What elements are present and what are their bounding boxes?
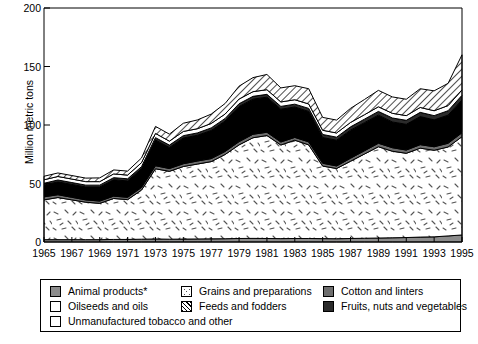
y-tick-label: 100	[15, 120, 41, 130]
legend-swatch-feeds-icon	[181, 301, 192, 312]
legend-swatch-oilseeds-icon	[50, 301, 61, 312]
legend-item-feeds[interactable]: Feeds and fodders	[181, 299, 287, 314]
legend: Animal products*Grains and preparationsC…	[40, 279, 461, 332]
y-tick-label: 150	[15, 62, 41, 72]
legend-label-fruits: Fruits, nuts and vegetables	[341, 301, 467, 312]
legend-label-animal: Animal products*	[68, 286, 147, 297]
legend-item-oilseeds[interactable]: Oilseeds and oils	[50, 299, 148, 314]
legend-item-cotton[interactable]: Cotton and linters	[323, 284, 423, 299]
legend-swatch-grains-icon	[181, 286, 192, 297]
legend-label-oilseeds: Oilseeds and oils	[68, 301, 148, 312]
y-axis-ticks: 050100150200	[0, 0, 41, 344]
legend-swatch-fruits-icon	[323, 301, 334, 312]
legend-label-tobacco: Unmanufactured tobacco and other	[68, 316, 233, 327]
legend-item-grains[interactable]: Grains and preparations	[181, 284, 312, 299]
legend-label-cotton: Cotton and linters	[341, 286, 423, 297]
legend-label-feeds: Feeds and fodders	[199, 301, 287, 312]
legend-item-tobacco[interactable]: Unmanufactured tobacco and other	[50, 314, 233, 329]
y-tick-label: 0	[15, 237, 41, 247]
legend-swatch-animal-icon	[50, 286, 61, 297]
legend-label-grains: Grains and preparations	[199, 286, 312, 297]
y-tick-label: 50	[15, 179, 41, 189]
legend-swatch-tobacco-icon	[50, 316, 61, 327]
y-tick-label: 200	[15, 3, 41, 13]
legend-item-fruits[interactable]: Fruits, nuts and vegetables	[323, 299, 467, 314]
x-tick-label: 1995	[445, 247, 478, 259]
legend-item-animal[interactable]: Animal products*	[50, 284, 147, 299]
legend-swatch-cotton-icon	[323, 286, 334, 297]
